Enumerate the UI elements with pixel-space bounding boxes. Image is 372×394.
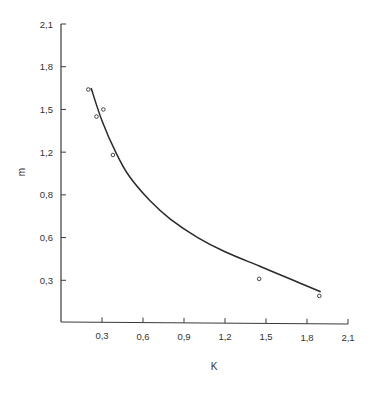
x-tick-label: 0,6 — [136, 331, 149, 342]
plot-area — [87, 88, 322, 298]
fit-curve — [91, 88, 321, 292]
data-point — [87, 88, 91, 92]
data-point — [111, 153, 115, 157]
data-point — [102, 108, 106, 112]
y-axis: 0,30,60,81,21,51,82,1 m — [16, 19, 66, 323]
chart: 0,30,60,81,21,51,82,1 m 0,30,60,91,21,51… — [0, 0, 372, 394]
y-tick-label: 1,8 — [40, 61, 53, 72]
y-tick-label: 1,5 — [40, 104, 53, 115]
x-axis: 0,30,60,91,21,51,82,1 K — [61, 317, 355, 372]
x-ticks: 0,30,60,91,21,51,82,1 — [95, 317, 354, 343]
y-tick-label: 1,2 — [40, 147, 53, 158]
x-tick-label: 1,2 — [218, 331, 231, 342]
data-point — [95, 115, 99, 119]
x-tick-label: 1,5 — [259, 331, 272, 342]
y-tick-label: 0,6 — [40, 232, 53, 243]
y-tick-label: 0,8 — [40, 189, 53, 200]
x-tick-label: 0,9 — [177, 331, 190, 342]
x-tick-label: 0,3 — [95, 330, 108, 341]
x-tick-label: 1,8 — [300, 332, 313, 343]
y-ticks: 0,30,60,81,21,51,82,1 — [40, 19, 66, 286]
x-tick-label: 2,1 — [341, 332, 354, 343]
data-points — [87, 88, 322, 298]
y-tick-label: 0,3 — [40, 275, 53, 286]
data-point — [318, 294, 322, 298]
x-axis-line — [61, 322, 348, 324]
y-axis-label: m — [16, 168, 27, 176]
data-point — [257, 277, 261, 281]
y-tick-label: 2,1 — [40, 19, 53, 30]
x-axis-label: K — [211, 361, 218, 372]
